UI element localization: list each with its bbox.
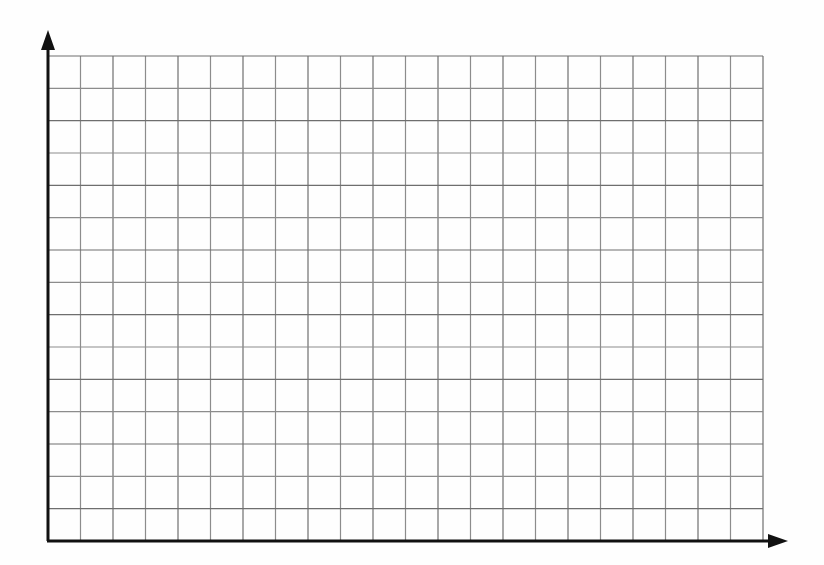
arrow-up-icon [41,30,55,50]
coordinate-grid-canvas [0,0,824,565]
arrow-right-icon [768,534,788,548]
axes-layer [41,30,788,548]
graph-paper-figure [0,0,824,565]
grid-vertical-lines [48,56,763,541]
